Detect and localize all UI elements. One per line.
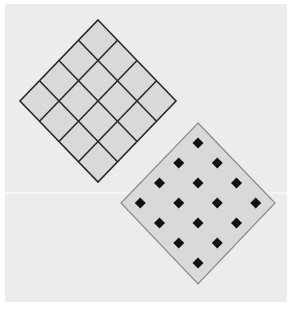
diagram-canvas xyxy=(0,0,291,309)
